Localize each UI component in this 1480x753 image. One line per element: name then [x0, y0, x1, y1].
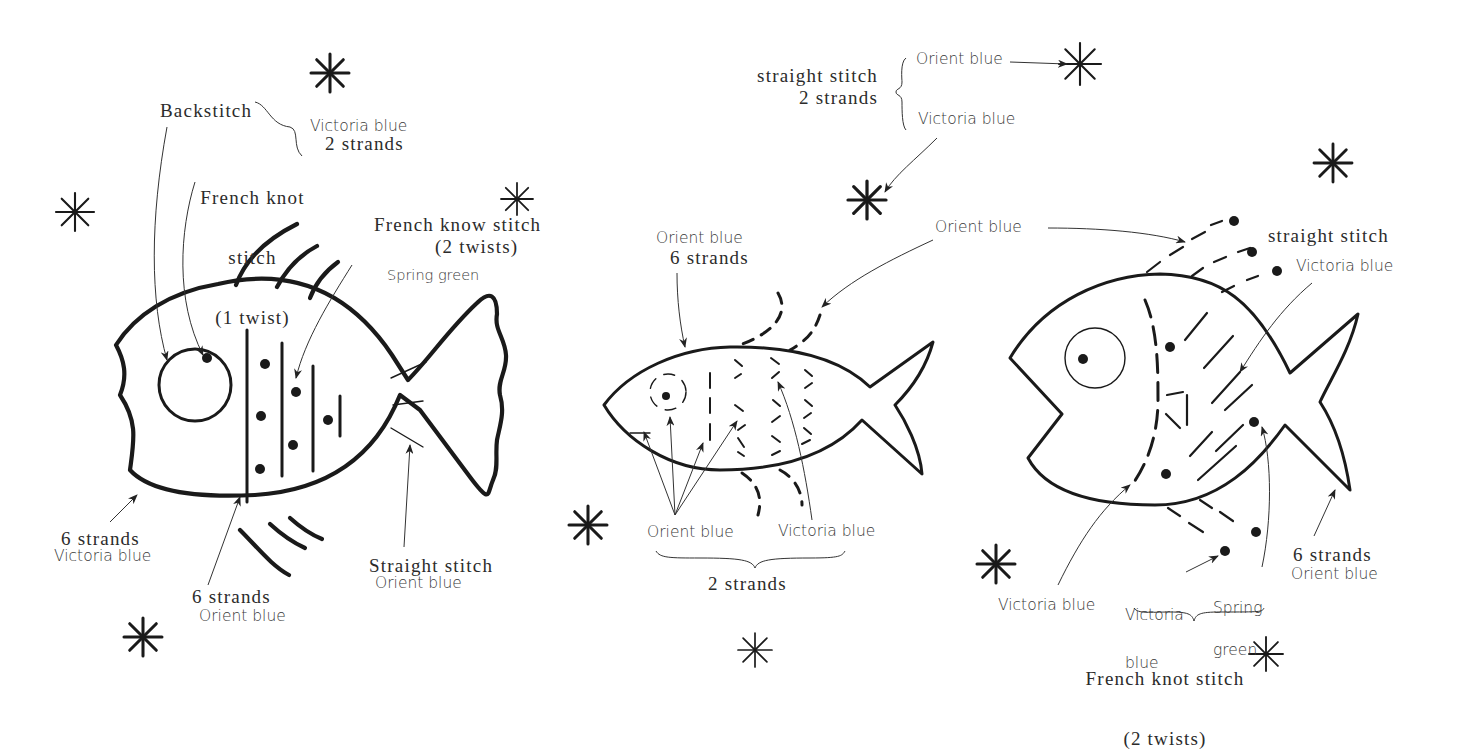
label-bottom-orient-blue: Orient blue — [647, 524, 734, 540]
label-right-knot-stitch-line1: French knot stitch — [1060, 669, 1270, 689]
label-victoria-blue: Victoria blue — [310, 118, 407, 134]
label-top-orient-blue: Orient blue — [916, 51, 1003, 67]
label-right-victoria-knot-line1: Victoria — [1125, 607, 1184, 623]
label-outline-color: Victoria blue — [54, 548, 151, 564]
label-right-knot-stitch: French knot stitch (2 twists) — [1060, 629, 1270, 753]
label-straight-stitch: straight stitch — [738, 66, 878, 86]
label-right-victoria-left: Victoria blue — [998, 597, 1095, 613]
label-right-outline-strands: 6 strands — [1293, 545, 1372, 565]
label-outline-strands: 6 strands — [61, 529, 140, 549]
label-bottom-victoria-blue: Victoria blue — [778, 523, 875, 539]
label-right-knot-stitch-line2: (2 twists) — [1060, 729, 1270, 749]
label-stripes-color: Orient blue — [199, 608, 286, 624]
label-top-victoria-blue: Victoria blue — [918, 111, 1015, 127]
label-spring-green: Spring green — [387, 268, 479, 283]
label-right-victoria-top: Victoria blue — [1296, 258, 1393, 274]
label-tail-color: Orient blue — [375, 575, 462, 591]
label-french-knot-line2: stitch — [180, 248, 325, 268]
label-french-know-stitch: French know stitch — [374, 215, 541, 235]
label-2-strands: 2 strands — [325, 134, 404, 154]
label-right-straight-stitch: straight stitch — [1268, 226, 1389, 246]
label-right-outline-color: Orient blue — [1291, 566, 1378, 582]
label-bottom-2-strands: 2 strands — [708, 574, 787, 594]
label-tail-stitch: Straight stitch — [369, 556, 493, 576]
label-bubbles-orient-blue: Orient blue — [935, 219, 1022, 235]
label-2-twists: (2 twists) — [435, 237, 518, 257]
fish-middle — [604, 58, 1067, 568]
label-outline-6-strands: 6 strands — [670, 248, 749, 268]
label-stripes-strands: 6 strands — [192, 587, 271, 607]
label-outline-orient-blue: Orient blue — [656, 230, 743, 246]
label-straight-2-strands: 2 strands — [738, 88, 878, 108]
label-french-knot-line1: French knot — [180, 188, 325, 208]
label-french-knot-line3: (1 twist) — [180, 308, 325, 328]
label-french-knot: French knot stitch (1 twist) — [180, 148, 325, 347]
label-backstitch: Backstitch — [160, 101, 252, 121]
label-right-spring-line1: Spring — [1213, 602, 1262, 616]
